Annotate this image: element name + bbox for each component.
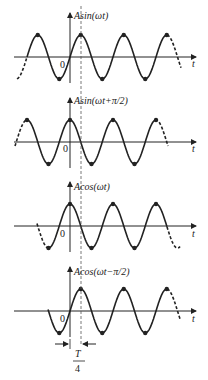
axis-label: t xyxy=(192,313,195,324)
fraction-numerator: T xyxy=(75,348,81,359)
axis-label: t xyxy=(192,143,195,154)
panel-label: Acos(ωt) xyxy=(74,181,110,192)
origin-label: 0 xyxy=(63,143,68,154)
fraction-denominator: 4 xyxy=(75,363,80,374)
panel-label: Acos(ωt−π/2) xyxy=(74,266,129,277)
origin-label: 0 xyxy=(60,313,65,324)
origin-label: 0 xyxy=(60,59,65,70)
panel-label: Asin(ωt+π/2) xyxy=(74,95,128,106)
axis-label: t xyxy=(192,228,195,239)
axis-label: t xyxy=(192,58,195,69)
origin-label: 0 xyxy=(60,228,65,239)
panel-label: Asin(ωt) xyxy=(74,10,108,21)
